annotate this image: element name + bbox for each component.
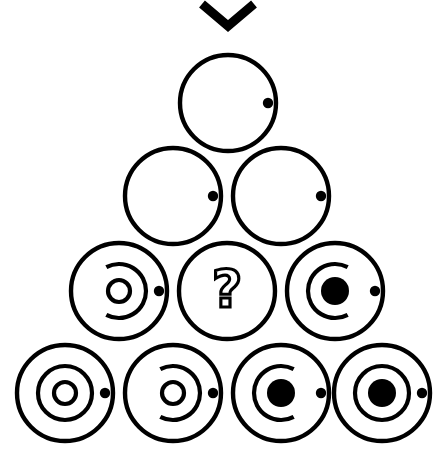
satellite-dot [316, 191, 326, 201]
orbit-full-ring-filled-core-r4c4[interactable] [334, 345, 430, 441]
question-mark-label: ? [212, 259, 242, 319]
orbit-empty-dot-r2c1[interactable] [125, 148, 221, 244]
satellite-dot [370, 286, 380, 296]
core-hollow [108, 280, 130, 302]
orbit-empty-dot-r1c1[interactable] [180, 55, 276, 151]
core-filled [267, 379, 295, 407]
outer-circle [180, 55, 276, 151]
orbit-row-3: ? [71, 243, 383, 339]
orbit-arc-open-left-hollow-core-r3c1[interactable] [71, 243, 167, 339]
satellite-dot [263, 98, 273, 108]
orbit-arc-open-right-filled-core-r3c3[interactable] [287, 243, 383, 339]
orbit-empty-dot-r2c2[interactable] [233, 148, 329, 244]
missing-cell-r3c2[interactable]: ? [179, 243, 275, 339]
orbit-arc-open-left-hollow-core-r4c2[interactable] [125, 345, 221, 441]
satellite-dot [208, 388, 218, 398]
satellite-dot [208, 191, 218, 201]
orbit-row-1 [180, 55, 276, 151]
core-hollow [54, 382, 76, 404]
core-filled [368, 379, 396, 407]
outer-circle [233, 148, 329, 244]
satellite-dot [154, 286, 164, 296]
satellite-dot [417, 388, 427, 398]
puzzle-canvas: ? [0, 0, 442, 462]
orbit-full-ring-hollow-core-r4c1[interactable] [17, 345, 113, 441]
satellite-dot [100, 388, 110, 398]
outer-circle [125, 148, 221, 244]
core-filled [321, 277, 349, 305]
satellite-dot [316, 388, 326, 398]
core-hollow [162, 382, 184, 404]
puzzle-figure: ? [0, 0, 442, 462]
orbit-arc-open-right-filled-core-r4c3[interactable] [233, 345, 329, 441]
